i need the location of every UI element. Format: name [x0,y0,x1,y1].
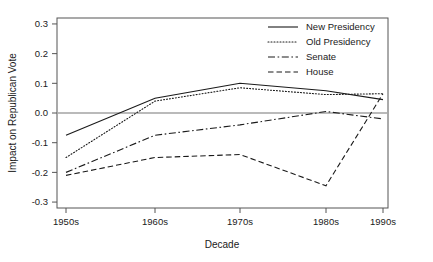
data-series-group [66,83,383,185]
y-tick-label: 0.2 [35,48,48,59]
y-axis-title: Impact on Republican Vote [7,53,18,173]
y-tick-label: -0.3 [32,196,48,207]
x-axis-title: Decade [205,239,240,250]
x-tick-label: 1990s [370,216,396,227]
x-tick-label: 1980s [313,216,339,227]
y-tick-label: 0.0 [35,107,48,118]
x-axis-ticks: 1950s1960s1970s1980s1990s [53,208,396,227]
y-axis-ticks: 0.30.20.10.0-0.1-0.2-0.3 [32,18,57,207]
line-chart: 0.30.20.10.0-0.1-0.2-0.3 1950s1960s1970s… [0,0,433,262]
legend-label-new-presidency: New Presidency [306,21,375,32]
x-tick-label: 1970s [227,216,253,227]
series-line-house [66,94,383,186]
chart-container: 0.30.20.10.0-0.1-0.2-0.3 1950s1960s1970s… [0,0,433,262]
x-tick-label: 1950s [53,216,79,227]
y-tick-label: -0.1 [32,137,48,148]
x-tick-label: 1960s [142,216,168,227]
series-line-senate [66,112,383,173]
legend-label-house: House [306,66,333,77]
legend-label-old-presidency: Old Presidency [306,36,371,47]
series-line-old-presidency [66,88,383,158]
y-tick-label: -0.2 [32,167,48,178]
series-line-new-presidency [66,83,383,135]
legend-label-senate: Senate [306,51,336,62]
chart-legend: New PresidencyOld PresidencySenateHouse [268,21,375,77]
y-tick-label: 0.3 [35,18,48,29]
y-tick-label: 0.1 [35,78,48,89]
